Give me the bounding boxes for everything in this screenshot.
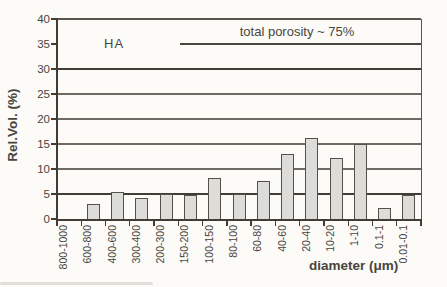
- bar-80-100: [233, 194, 246, 219]
- x-tick-label: 0.01-0.1: [397, 225, 409, 283]
- gridline: [57, 18, 421, 20]
- bar-0.01-0.1: [402, 195, 415, 219]
- y-tick-label: 10: [16, 163, 50, 175]
- x-tick-label: 20-40: [300, 225, 312, 283]
- x-tick-label: 300-400: [130, 225, 142, 283]
- porosity-annotation-line: [180, 43, 421, 45]
- x-axis-line: [56, 219, 422, 221]
- bar-0.1-1: [378, 208, 391, 219]
- x-tick-label: 40-60: [276, 225, 288, 283]
- bar-150-200: [184, 195, 197, 220]
- x-tick-label: 10-20: [324, 225, 336, 283]
- porosity-annotation: total porosity ~ 75%: [197, 24, 397, 39]
- x-tick-label: 60-80: [251, 225, 263, 283]
- y-tick-label: 5: [16, 188, 50, 200]
- x-tick-label: 400-600: [106, 225, 118, 283]
- y-tick-label: 20: [16, 113, 50, 125]
- y-tick-label: 40: [16, 13, 50, 25]
- bar-400-600: [111, 192, 124, 219]
- x-tick-label: 800-1000: [57, 225, 69, 283]
- bar-60-80: [257, 181, 270, 219]
- bar-1-10: [354, 144, 367, 220]
- gridline: [57, 68, 421, 71]
- sample-label: HA: [104, 36, 124, 51]
- x-tick-label: 80-100: [227, 225, 239, 283]
- gridline: [57, 93, 421, 94]
- plot-right-border: [421, 19, 423, 221]
- bar-300-400: [135, 198, 148, 219]
- x-tick-label: 200-300: [154, 225, 166, 283]
- y-tick-label: 35: [16, 38, 50, 50]
- bar-20-40: [305, 138, 318, 219]
- x-tick-label: 600-800: [81, 225, 93, 283]
- x-tick-label: 1-10: [348, 225, 360, 283]
- x-tick-label: 0.1-1: [373, 225, 385, 283]
- y-tick-label: 15: [16, 138, 50, 150]
- bar-100-150: [208, 178, 221, 220]
- x-tick-label: 100-150: [203, 225, 215, 283]
- x-axis-tick: [420, 221, 421, 226]
- y-axis-line: [56, 19, 58, 221]
- x-tick-label: 150-200: [178, 225, 190, 283]
- bar-10-20: [330, 158, 343, 220]
- y-tick-label: 0: [16, 213, 50, 225]
- pore-size-distribution-chart: HA total porosity ~ 75% Rel.Vol. (%) dia…: [0, 0, 447, 287]
- y-tick-label: 25: [16, 88, 50, 100]
- bar-200-300: [160, 194, 173, 219]
- y-tick-label: 30: [16, 63, 50, 75]
- bar-600-800: [87, 204, 100, 219]
- bar-40-60: [281, 154, 294, 219]
- gridline: [57, 118, 421, 119]
